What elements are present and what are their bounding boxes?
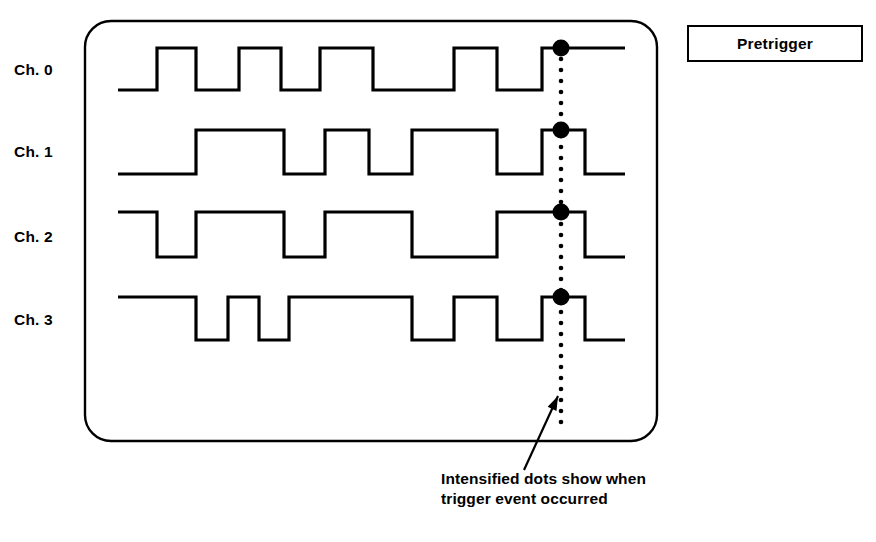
trigger-line-dot	[559, 79, 564, 84]
trigger-line-dot	[559, 222, 564, 227]
caption-line-2: trigger event occurred	[441, 489, 771, 509]
trigger-line-dot	[559, 255, 564, 260]
trigger-line-dot	[559, 354, 564, 359]
channel-label-ch0: Ch. 0	[14, 61, 53, 79]
trigger-line-dot	[559, 112, 564, 117]
pretrigger-label: Pretrigger	[737, 35, 813, 53]
trigger-line-dot	[559, 233, 564, 238]
channel-label-ch2: Ch. 2	[14, 228, 53, 246]
trigger-line-dot	[559, 178, 564, 183]
trigger-line-dot	[559, 310, 564, 315]
channel-label-ch3: Ch. 3	[14, 311, 53, 329]
trigger-line-dot	[559, 387, 564, 392]
channel-label-ch1: Ch. 1	[14, 143, 53, 161]
trigger-line-dot	[559, 167, 564, 172]
trigger-dotted-line	[559, 46, 564, 425]
trigger-line-dot	[559, 332, 564, 337]
trigger-line-dot	[559, 156, 564, 161]
pretrigger-mode-box: Pretrigger	[687, 25, 863, 62]
trigger-line-dot	[559, 321, 564, 326]
trigger-line-dot	[559, 420, 564, 425]
trigger-line-dot	[559, 101, 564, 106]
trigger-line-dot	[559, 376, 564, 381]
trigger-line-dot	[559, 145, 564, 150]
trigger-line-dot	[559, 409, 564, 414]
trigger-line-dot	[559, 398, 564, 403]
caption-line-1: Intensified dots show when	[441, 469, 771, 489]
screen-border	[85, 21, 657, 441]
trigger-line-dot	[559, 365, 564, 370]
intensified-trigger-dot	[553, 289, 570, 306]
trigger-line-dot	[559, 57, 564, 62]
trigger-line-dot	[559, 189, 564, 194]
logic-analyzer-screen	[85, 21, 657, 441]
trigger-line-dot	[559, 68, 564, 73]
figure-caption: Intensified dots show when trigger event…	[441, 469, 771, 510]
intensified-trigger-dot	[553, 40, 570, 57]
trigger-line-dot	[559, 244, 564, 249]
waveform-canvas	[0, 0, 876, 542]
trigger-line-dot	[559, 266, 564, 271]
trigger-line-dot	[559, 277, 564, 282]
figure-root: Ch. 0 Ch. 1 Ch. 2 Ch. 3 Pretrigger Inten…	[0, 0, 876, 542]
trigger-line-dot	[559, 90, 564, 95]
trigger-line-dot	[559, 343, 564, 348]
intensified-trigger-dot	[553, 122, 570, 139]
intensified-trigger-dot	[553, 204, 570, 221]
